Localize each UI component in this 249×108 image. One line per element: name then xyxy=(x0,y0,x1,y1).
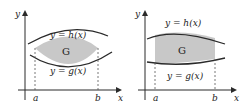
x-label: x xyxy=(118,93,123,103)
y-label: y xyxy=(134,9,141,19)
region-label: G xyxy=(178,45,186,56)
figure-right: y x y = h(x) y = g(x) G a b xyxy=(134,9,239,103)
y-arrow-icon xyxy=(22,10,28,16)
g-label: y = g(x) xyxy=(49,66,87,76)
h-label: y = h(x) xyxy=(49,30,87,40)
a-label: a xyxy=(33,93,38,103)
b-label: b xyxy=(212,93,218,103)
b-label: b xyxy=(95,93,101,103)
y-arrow-icon xyxy=(142,10,148,16)
figure-left: y x y = h(x) y = g(x) G a b xyxy=(14,9,123,103)
y-label: y xyxy=(14,9,21,19)
region-label: G xyxy=(62,46,70,57)
diagram-canvas: y x y = h(x) y = g(x) G a b y x y = h(x)… xyxy=(0,0,249,108)
h-label: y = h(x) xyxy=(164,18,202,28)
a-label: a xyxy=(153,93,158,103)
x-label: x xyxy=(234,93,239,103)
g-label: y = g(x) xyxy=(166,71,204,81)
